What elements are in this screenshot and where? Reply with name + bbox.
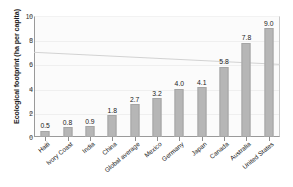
bar-value-label: 5.8 — [219, 58, 228, 65]
ecological-footprint-bar-chart: Ecological footprint (ha per capita) 0.5… — [0, 0, 293, 187]
y-tick-mark — [29, 137, 33, 138]
y-tick-mark — [29, 40, 33, 41]
bar[interactable] — [108, 115, 117, 137]
bar-group[interactable]: 0.9 — [79, 16, 101, 137]
bar[interactable] — [130, 104, 139, 137]
y-tick-mark — [29, 16, 33, 17]
y-tick-mark — [29, 88, 33, 89]
bar-value-label: 0.8 — [63, 119, 72, 126]
bar-group[interactable]: 0.8 — [56, 16, 78, 137]
bars-layer: 0.50.80.91.82.73.24.04.15.87.89.0 — [34, 16, 280, 137]
x-tick-label-text: Haiti — [37, 140, 51, 154]
bar-group[interactable]: 0.5 — [34, 16, 56, 137]
bar[interactable] — [220, 67, 229, 137]
bar-value-label: 4.0 — [175, 80, 184, 87]
bar[interactable] — [242, 43, 251, 137]
bar[interactable] — [264, 28, 273, 137]
bar-value-label: 0.5 — [40, 122, 49, 129]
bar-group[interactable]: 7.8 — [235, 16, 257, 137]
bar-value-label: 2.7 — [130, 96, 139, 103]
bar-group[interactable]: 2.7 — [123, 16, 145, 137]
y-tick-mark — [29, 112, 33, 113]
bar[interactable] — [63, 127, 72, 137]
x-tick-label-text: China — [101, 140, 118, 156]
bar-value-label: 3.2 — [152, 90, 161, 97]
bar-group[interactable]: 1.8 — [101, 16, 123, 137]
x-tick-label-text: India — [81, 140, 96, 154]
bar-value-label: 9.0 — [264, 20, 273, 27]
bar-group[interactable]: 9.0 — [258, 16, 280, 137]
y-tick-mark — [29, 64, 33, 65]
x-tick-label-text: Japan — [190, 140, 208, 157]
bar-value-label: 1.8 — [108, 107, 117, 114]
bar-group[interactable]: 5.8 — [213, 16, 235, 137]
bar-value-label: 7.8 — [242, 34, 251, 41]
bar-value-label: 4.1 — [197, 79, 206, 86]
bar-group[interactable]: 4.1 — [191, 16, 213, 137]
